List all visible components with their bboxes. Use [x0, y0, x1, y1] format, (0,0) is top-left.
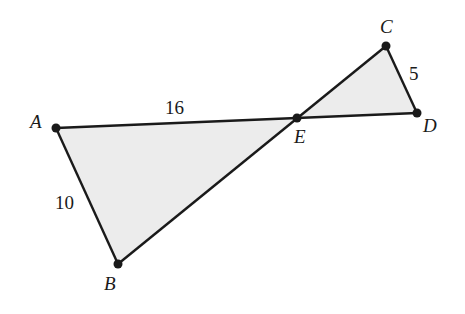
measure-cd: 5 [409, 63, 419, 84]
point-d [413, 109, 422, 118]
label-d: D [422, 115, 437, 136]
point-b [114, 260, 123, 269]
triangle-abe [56, 118, 297, 264]
label-a: A [28, 111, 42, 132]
point-a [52, 124, 61, 133]
label-b: B [104, 273, 116, 294]
measure-ae: 16 [165, 97, 184, 118]
point-c [382, 42, 391, 51]
label-c: C [380, 16, 393, 37]
point-e [293, 114, 302, 123]
geometry-diagram: A B C D E 16 10 5 [0, 0, 465, 314]
triangle-cde [297, 46, 417, 118]
measure-ab: 10 [55, 192, 74, 213]
label-e: E [293, 126, 306, 147]
